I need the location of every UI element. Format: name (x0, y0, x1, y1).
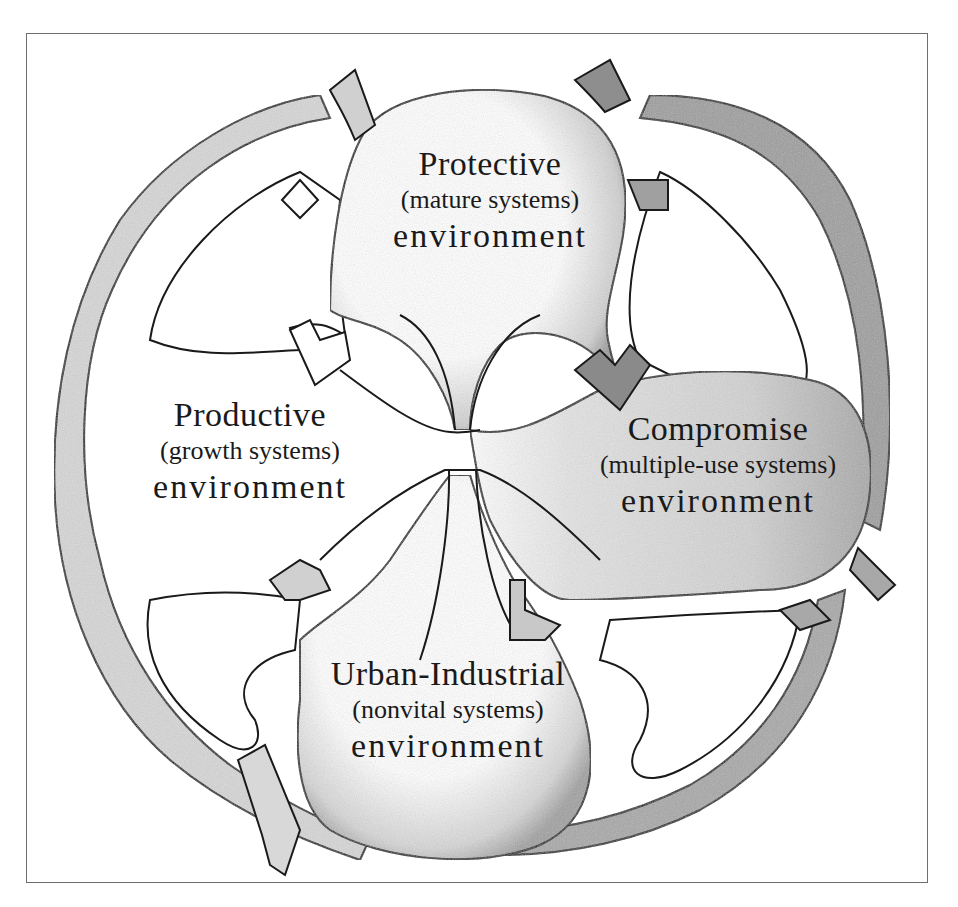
compartment-subtitle: (mature systems) (360, 187, 620, 213)
compartment-subtitle: (nonvital systems) (298, 697, 598, 723)
compartment-protective: Protective (mature systems) environment (360, 147, 620, 253)
arrow-inflow-top-right (575, 60, 630, 112)
compartment-title: Compromise (558, 412, 878, 446)
compartment-subtitle: (multiple-use systems) (558, 452, 878, 478)
compartment-productive: Productive (growth systems) environment (115, 398, 385, 504)
compartment-title: Urban-Industrial (298, 657, 598, 691)
arrow-inflow-top-left (330, 70, 375, 140)
compartment-urban-industrial: Urban-Industrial (nonvital systems) envi… (298, 657, 598, 763)
arrow-outflow-right-1 (850, 548, 895, 600)
compartment-subtitle: (growth systems) (115, 438, 385, 464)
compartment-suffix: environment (558, 484, 878, 518)
compartment-compromise: Compromise (multiple-use systems) enviro… (558, 412, 878, 518)
compartment-protective-shape (330, 90, 626, 430)
compartment-suffix: environment (115, 470, 385, 504)
arrow-right-notch (628, 180, 668, 210)
compartment-title: Protective (360, 147, 620, 181)
compartment-suffix: environment (298, 729, 598, 763)
compartment-suffix: environment (360, 219, 620, 253)
arrow-productive-to-urban (270, 560, 330, 600)
compartment-title: Productive (115, 398, 385, 432)
